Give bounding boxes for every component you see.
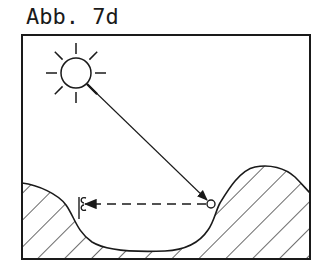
diagram-canvas — [0, 0, 326, 279]
observer-eye-icon — [79, 197, 86, 219]
ball-icon — [207, 200, 215, 208]
sun-ray-arrow — [87, 84, 207, 200]
terrain — [22, 166, 310, 259]
